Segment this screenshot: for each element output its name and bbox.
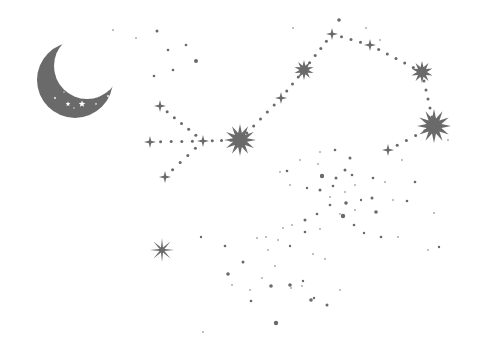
star-dot [250, 300, 253, 303]
path-dot [180, 122, 183, 125]
star-dot [231, 284, 233, 286]
star-dot [265, 236, 267, 238]
star-dot [335, 177, 338, 180]
path-dot [211, 139, 214, 142]
star-dot [317, 163, 319, 165]
star-dot [363, 232, 365, 234]
path-dot [252, 125, 255, 128]
path-dot [186, 154, 189, 157]
star-dot [379, 39, 381, 41]
star-dot [351, 174, 354, 177]
path-dot [291, 83, 294, 86]
star-dot [374, 210, 378, 214]
star-dot [267, 249, 269, 251]
star-dot [447, 139, 449, 141]
star-dot [334, 149, 337, 152]
star-dot [344, 169, 347, 172]
path-dot [395, 57, 398, 60]
star-dot [172, 69, 175, 72]
star-dot [371, 197, 374, 200]
star-dot [380, 236, 383, 239]
path-dot [191, 140, 194, 143]
star-dot [292, 27, 294, 29]
star-dot [202, 331, 204, 333]
star-dot [353, 224, 356, 227]
sparkle-lone-icon [150, 238, 174, 262]
star-dot [324, 258, 326, 260]
path-dot [170, 140, 173, 143]
star-dot [302, 280, 304, 282]
star-dot [304, 219, 307, 222]
star-dot [313, 297, 315, 299]
star-dot [185, 44, 188, 47]
path-dot [405, 139, 408, 142]
star-dot [290, 287, 292, 289]
star-dot [332, 185, 335, 188]
star-dot [274, 321, 278, 325]
path-dot [350, 38, 353, 41]
path-dot [319, 47, 322, 50]
star-dot [344, 201, 348, 205]
star-dot [167, 49, 170, 52]
star-dot [291, 224, 293, 226]
star-dot [427, 249, 429, 251]
constellation-illustration [0, 0, 480, 353]
path-dot [259, 118, 262, 121]
star-dot [316, 213, 319, 216]
path-dot [266, 111, 269, 114]
star-dot [288, 283, 292, 287]
star-dot [349, 157, 352, 160]
star-dot [392, 199, 394, 201]
star-dot [414, 181, 417, 184]
star-dot [384, 181, 386, 183]
star-dot [269, 284, 273, 288]
star-dot [309, 298, 313, 302]
path-dot [377, 48, 380, 51]
star-dot [135, 37, 137, 39]
star-dot [339, 289, 341, 291]
star-dot [194, 59, 198, 63]
path-dot [386, 53, 389, 56]
path-dot [173, 116, 176, 119]
star-dot [256, 237, 258, 239]
star-dot [438, 246, 440, 248]
star-dot [153, 75, 156, 78]
path-dot [414, 134, 417, 137]
star-dot [286, 170, 289, 173]
star-dot [112, 29, 114, 31]
path-dot [194, 134, 197, 137]
star-dot [337, 18, 341, 22]
star-dot [289, 245, 291, 247]
path-dot [340, 35, 343, 38]
path-dot [359, 41, 362, 44]
star-dot [274, 265, 276, 267]
star-dot [339, 213, 341, 215]
path-dot [159, 140, 162, 143]
star-dot [319, 189, 322, 192]
star-dot [277, 239, 279, 241]
star-dot [224, 245, 227, 248]
star-dot [329, 196, 331, 198]
star-dot [406, 200, 409, 203]
path-dot [403, 62, 406, 65]
star-dot [401, 159, 403, 161]
star-dot [354, 184, 356, 186]
path-dot [171, 168, 174, 171]
star-dot [304, 231, 307, 234]
star-dot [301, 285, 303, 287]
star-dot [319, 228, 321, 230]
path-dot [285, 90, 288, 93]
star-dot [344, 191, 346, 193]
path-dot [427, 98, 430, 101]
path-dot [429, 107, 432, 110]
path-dot [194, 147, 197, 150]
star-dot [329, 204, 332, 207]
path-dot [273, 104, 276, 107]
path-dot [220, 139, 223, 142]
star-dot [306, 187, 308, 189]
path-dot [314, 54, 317, 57]
star-dot [365, 27, 367, 29]
star-dot [282, 227, 284, 229]
path-dot [412, 66, 415, 69]
star-dot [279, 171, 281, 173]
